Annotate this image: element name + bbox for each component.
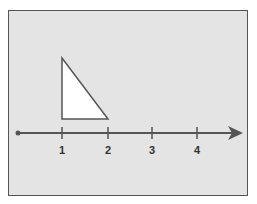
diagram-canvas bbox=[0, 0, 257, 204]
right-triangle bbox=[62, 58, 108, 119]
tick-label-4: 4 bbox=[194, 144, 200, 156]
tick-label-2: 2 bbox=[105, 144, 111, 156]
number-line-start-dot bbox=[16, 131, 21, 136]
tick-label-1: 1 bbox=[59, 144, 65, 156]
tick-label-3: 3 bbox=[149, 144, 155, 156]
